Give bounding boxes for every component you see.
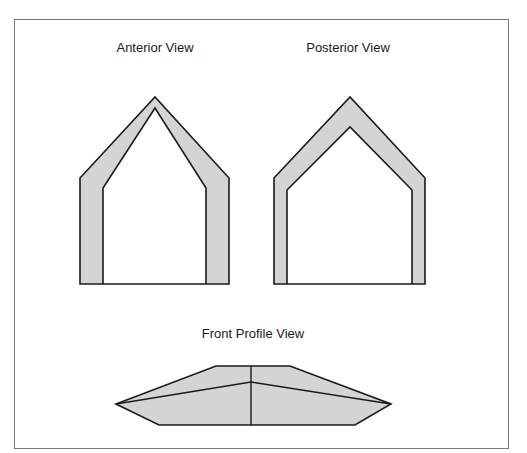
- front-profile-view-shape: [116, 366, 391, 425]
- diagram-canvas: [0, 0, 527, 453]
- posterior-view-shape: [274, 97, 425, 284]
- anterior-view-shape: [80, 97, 229, 284]
